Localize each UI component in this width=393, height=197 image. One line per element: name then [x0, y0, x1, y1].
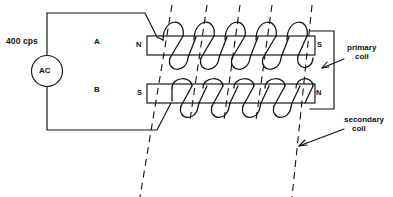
wire-top-lead	[47, 13, 157, 56]
secondary-left-pole-label: S	[137, 89, 142, 97]
primary-right-pole-label: S	[317, 41, 322, 49]
circuit-wiring	[47, 13, 172, 130]
diagram-canvas: 400 cps AC A B N S S N primary coil seco…	[0, 0, 393, 197]
region-a-label: A	[94, 38, 100, 46]
secondary-right-pole-label: N	[316, 89, 321, 97]
schematic-drawing	[0, 0, 393, 197]
region-b-label: B	[94, 86, 100, 94]
primary-core-bar	[147, 36, 315, 55]
primary-left-pole-label: N	[136, 41, 141, 49]
primary-coil-caption: primary coil	[347, 43, 376, 61]
primary-coil-caption-line2: coil	[347, 52, 376, 61]
secondary-coil-caption-line2: coil	[344, 124, 384, 133]
primary-coil-caption-line1: primary	[347, 43, 376, 52]
source-frequency-label: 400 cps	[6, 37, 38, 46]
secondary-coil-caption-line1: secondary	[344, 115, 384, 124]
secondary-coil-caption: secondary coil	[344, 115, 384, 133]
ac-source-label: AC	[39, 67, 51, 75]
arrow-icon-secondary	[299, 129, 344, 146]
